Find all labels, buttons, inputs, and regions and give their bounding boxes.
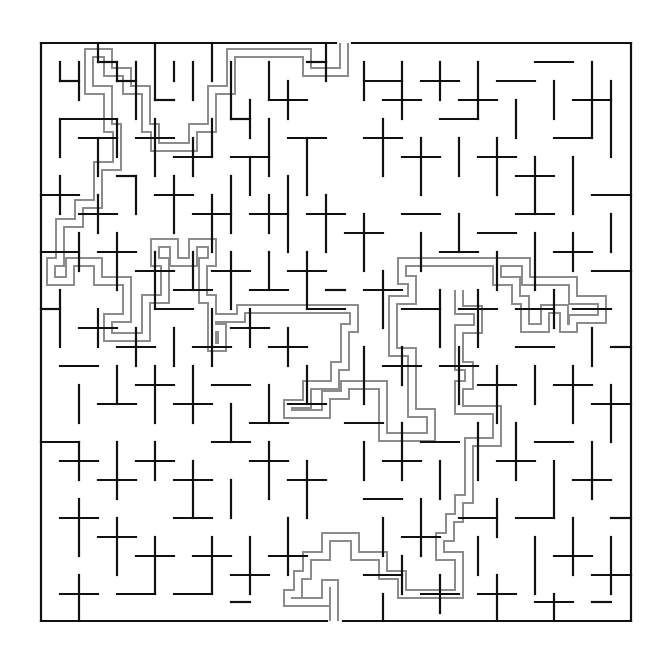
solution-path [51,43,602,621]
maze-canvas [0,0,653,657]
maze-puzzle [0,0,653,657]
